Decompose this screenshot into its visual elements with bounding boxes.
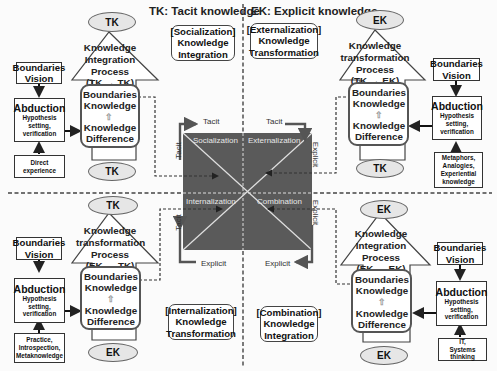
br-bottom-ellipse: EK [360, 346, 408, 365]
br-source-box: IT, Systems thinking [438, 338, 487, 361]
tr-top-ellipse: EK [356, 10, 404, 30]
tl-knowledge-difference: Knowledge Difference [82, 122, 138, 145]
axis-label-tl-side: Tacit [174, 142, 183, 158]
bl-up-arrow-icon: ⇧ [103, 294, 119, 304]
bl-boundaries-vision: Boundaries Vision [16, 237, 62, 260]
tl-top-ellipse: TK [88, 12, 136, 32]
br-boundaries-knowledge: Boundaries Knowledge [351, 274, 413, 297]
br-top-ellipse: EK [360, 200, 408, 219]
tr-source-box: Metaphors, Analogies, Experiential knowl… [434, 152, 483, 188]
seci-diagram: TK: Tacit knowledge EK: Explicit knowled… [0, 0, 497, 371]
bl-knowledge-difference: Knowledge Difference [80, 305, 142, 328]
br-process-label: Knowledge Integration Process (EK → EK) [350, 228, 412, 275]
bl-source-box: Practice, Introspection, Metaknowledge [14, 333, 65, 363]
tl-bottom-ellipse: TK [88, 162, 136, 181]
tl-abduction-box: Abduction Hypothesis setting, verificati… [14, 98, 65, 142]
bl-process-label: Knowledge transformation Process (EK → T… [76, 225, 144, 272]
legend-tacit: TK: Tacit knowledge [149, 5, 260, 17]
axis-label-bl-bottom: Explicit [201, 259, 226, 268]
quadrant-label-externalization: Externalization [248, 136, 300, 145]
axis-label-tr-top: Tacit [266, 117, 282, 126]
quadrant-label-socialization: Socialization [193, 136, 238, 145]
tl-boundaries-knowledge: Boundaries Knowledge [82, 89, 138, 112]
axis-label-tl-top: Tacit [203, 117, 219, 126]
bl-bottom-ellipse: EK [88, 343, 138, 362]
tl-process-label: Knowledge Integration Process (TK → TK) [82, 42, 138, 89]
tl-up-arrow-icon: ⇧ [101, 112, 117, 122]
tr-knowledge-difference: Knowledge Difference [348, 120, 410, 143]
axis-label-br-bottom: Explicit [265, 259, 290, 268]
br-boundaries-vision: Boundaries Vision [437, 242, 483, 265]
axis-label-tr-side: Explicit [311, 142, 320, 167]
quadrant-label-internalization: Internalization [186, 197, 236, 206]
mode-combination: [Combination] Knowledge Integration [260, 306, 318, 342]
tr-up-arrow-icon: ⇧ [371, 110, 387, 120]
tl-source-box: Direct experience [14, 155, 65, 178]
tr-abduction-box: Abduction Hypothesis setting, verificati… [432, 96, 482, 140]
bl-abduction-box: Abduction Hypothesis setting, verificati… [14, 278, 65, 323]
mode-internalization: [Internalization] Knowledge Transformati… [168, 304, 234, 340]
bl-boundaries-knowledge: Boundaries Knowledge [80, 271, 142, 294]
axis-label-bl-side: Tacit [174, 214, 183, 230]
quadrant-label-combination: Combination [257, 197, 302, 206]
tr-boundaries-vision: Boundaries Vision [433, 58, 480, 81]
mode-socialization: [Socialization] Knowledge Integration [171, 25, 235, 61]
br-knowledge-difference: Knowledge Difference [351, 308, 413, 331]
tl-boundaries-vision: Boundaries Vision [16, 62, 62, 84]
br-abduction-box: Abduction Hypothesis setting, verificati… [436, 281, 487, 326]
br-up-arrow-icon: ⇧ [374, 297, 390, 307]
tr-bottom-ellipse: TK [356, 159, 404, 178]
bl-top-ellipse: TK [88, 196, 138, 215]
axis-label-br-side: Explicit [311, 200, 320, 225]
tr-process-label: Knowledge transformation Process (TK → E… [340, 40, 410, 87]
mode-externalization: [Externalization] Knowledge Transformati… [250, 23, 318, 59]
tr-boundaries-knowledge: Boundaries Knowledge [348, 87, 410, 110]
